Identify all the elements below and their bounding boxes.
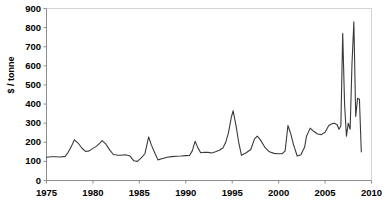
price-series-line xyxy=(47,22,362,162)
price-line-chart: $ / tonne 0100200300400500600700800900 1… xyxy=(0,0,389,207)
plot-area xyxy=(0,0,389,207)
axis-lines xyxy=(46,8,372,181)
